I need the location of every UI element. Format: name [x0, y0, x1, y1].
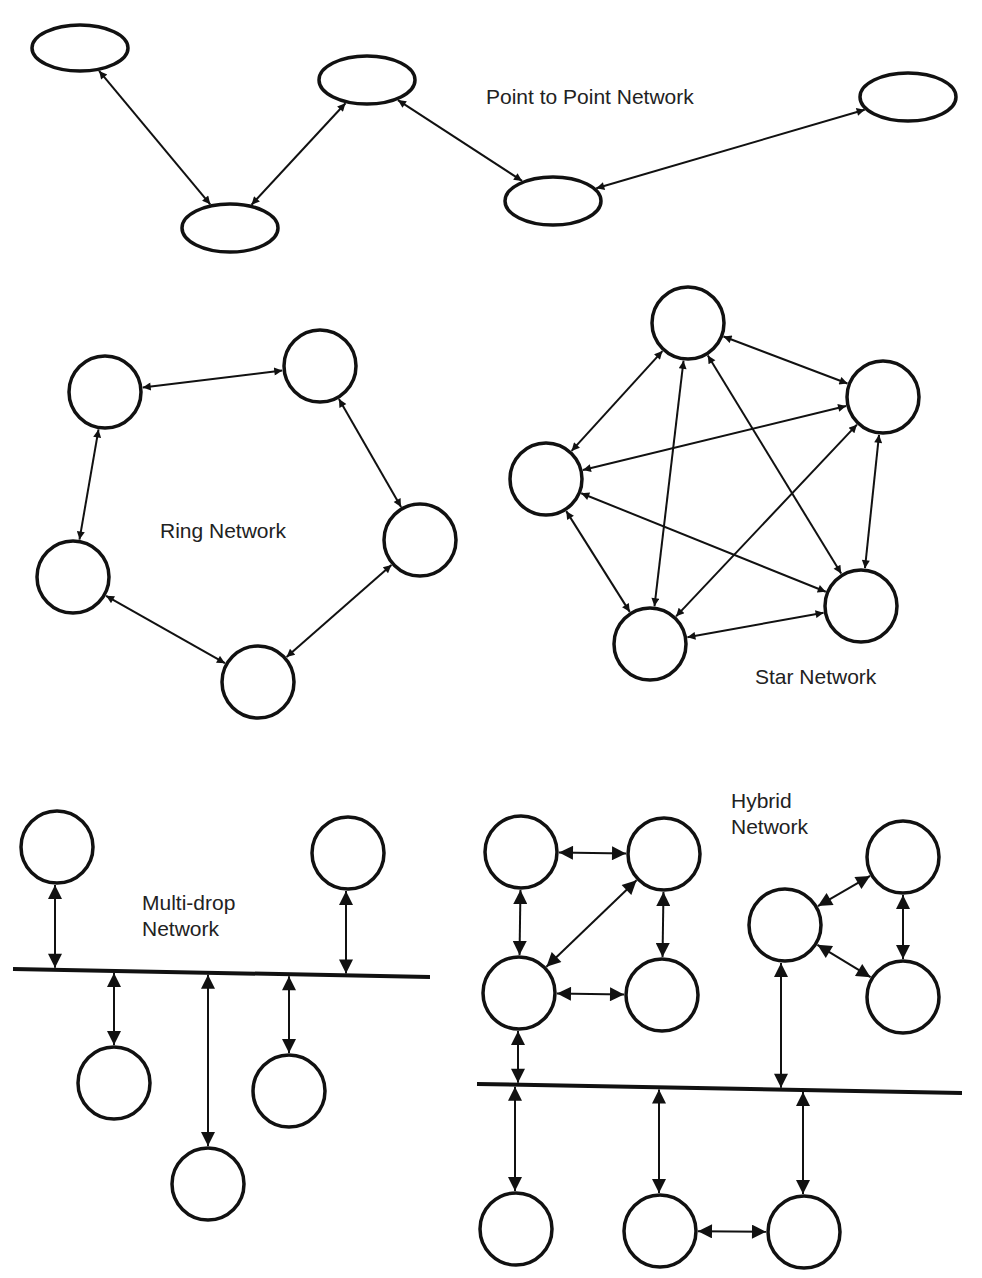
section-star: Star Network: [510, 287, 919, 688]
network-node: [628, 818, 700, 890]
network-node: [78, 1047, 150, 1119]
network-node: [69, 356, 141, 428]
bidirectional-arrow: [398, 100, 522, 181]
network-node: [652, 287, 724, 359]
bidirectional-arrow: [339, 399, 401, 507]
network-node: [768, 1196, 840, 1268]
bidirectional-arrow: [583, 406, 846, 470]
bidirectional-arrow: [287, 565, 392, 657]
bidirectional-arrow: [663, 892, 664, 957]
bidirectional-arrow: [520, 890, 521, 955]
network-node: [182, 204, 278, 252]
section-label: Hybrid Network: [731, 789, 809, 838]
bidirectional-arrow: [559, 853, 626, 854]
network-node: [483, 957, 555, 1029]
section-ring: Ring Network: [37, 330, 456, 718]
links-layer: [515, 853, 903, 1232]
network-node: [485, 816, 557, 888]
network-node: [384, 504, 456, 576]
nodes-layer: [32, 25, 956, 252]
bidirectional-arrow: [581, 493, 826, 592]
bidirectional-arrow: [99, 71, 210, 204]
section-label: Star Network: [755, 665, 877, 688]
network-node: [847, 361, 919, 433]
bidirectional-arrow: [708, 355, 841, 573]
network-node: [825, 570, 897, 642]
bidirectional-arrow: [106, 596, 225, 663]
bidirectional-arrow: [596, 110, 864, 189]
network-node: [172, 1148, 244, 1220]
network-node: [253, 1055, 325, 1127]
network-node: [624, 1195, 696, 1267]
section-multi-drop: Multi-drop Network: [13, 811, 430, 1220]
network-node: [614, 608, 686, 680]
section-hybrid: Hybrid Network: [477, 789, 962, 1268]
section-point-to-point: Point to Point Network: [32, 25, 956, 252]
bidirectional-arrow: [79, 429, 98, 539]
bidirectional-arrow: [572, 351, 663, 451]
bus-line: [13, 969, 430, 977]
network-node: [312, 817, 384, 889]
nodes-layer: [510, 287, 919, 680]
links-layer: [99, 71, 865, 205]
bidirectional-arrow: [687, 613, 823, 638]
network-node: [867, 961, 939, 1033]
bidirectional-arrow: [818, 876, 870, 906]
bidirectional-arrow: [546, 880, 636, 966]
network-node: [222, 646, 294, 718]
network-node: [867, 821, 939, 893]
bidirectional-arrow: [654, 361, 683, 607]
bidirectional-arrow: [817, 945, 870, 977]
network-node: [510, 443, 582, 515]
bidirectional-arrow: [865, 435, 879, 568]
network-node: [284, 330, 356, 402]
network-node: [32, 25, 128, 71]
network-node: [480, 1193, 552, 1265]
bidirectional-arrow: [566, 511, 629, 612]
bidirectional-arrow: [724, 336, 848, 383]
bus-line: [477, 1084, 962, 1093]
bidirectional-arrow: [557, 994, 624, 995]
nodes-layer: [480, 816, 939, 1268]
section-label: Multi-drop Network: [142, 891, 241, 940]
section-label: Ring Network: [160, 519, 287, 542]
network-node: [626, 959, 698, 1031]
network-node: [319, 56, 415, 104]
network-topologies-diagram: Point to Point Network Ring Network Star…: [0, 0, 982, 1278]
network-node: [505, 177, 601, 225]
bidirectional-arrow: [252, 103, 346, 205]
nodes-layer: [21, 811, 384, 1220]
network-node: [21, 811, 93, 883]
section-label: Point to Point Network: [486, 85, 694, 108]
bidirectional-arrow: [143, 371, 283, 388]
network-node: [860, 73, 956, 121]
network-node: [749, 889, 821, 961]
network-node: [37, 541, 109, 613]
